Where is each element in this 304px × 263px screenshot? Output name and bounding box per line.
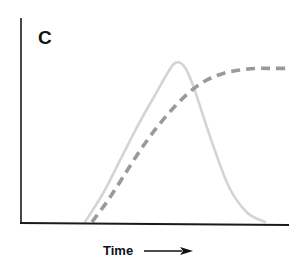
chart: C Time	[0, 0, 304, 263]
series-transient-peak	[85, 62, 265, 222]
x-axis	[20, 223, 289, 225]
plot-area	[20, 18, 290, 225]
series-layer	[85, 62, 290, 222]
x-axis-label-group: Time	[103, 243, 193, 258]
panel-label: C	[38, 27, 52, 48]
series-sigmoid-rise	[92, 68, 290, 222]
x-axis-label: Time	[103, 243, 133, 258]
